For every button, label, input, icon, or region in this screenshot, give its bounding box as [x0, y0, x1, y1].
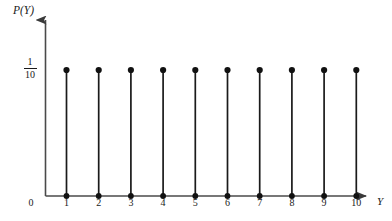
- data-point-marker: [224, 67, 230, 73]
- data-point-marker: [192, 67, 198, 73]
- axes-group: [46, 20, 367, 196]
- y-axis-title: P(Y): [13, 5, 34, 17]
- data-point-marker: [289, 67, 295, 73]
- x-tick-label-4: 4: [154, 198, 172, 208]
- x-tick-label-10: 10: [347, 198, 365, 208]
- fraction-numerator: 1: [19, 57, 41, 68]
- x-axis-title: Y: [377, 196, 383, 207]
- x-tick-label-3: 3: [122, 198, 140, 208]
- x-tick-label-1: 1: [58, 198, 76, 208]
- y-tick-label-one-tenth: 1 10: [19, 57, 41, 80]
- x-tick-label-2: 2: [90, 198, 108, 208]
- data-point-marker: [321, 67, 327, 73]
- data-point-marker: [96, 67, 102, 73]
- data-point-markers-top: [63, 67, 359, 73]
- probability-mass-function-figure: P(Y) Y 1 10 0 1 2 3 4 5 6 7 8 9 10: [0, 0, 392, 221]
- x-tick-label-5: 5: [186, 198, 204, 208]
- origin-label: 0: [25, 198, 37, 208]
- x-tick-label-8: 8: [283, 198, 301, 208]
- data-point-marker: [160, 67, 166, 73]
- data-point-marker: [257, 67, 263, 73]
- data-point-marker: [128, 67, 134, 73]
- fraction-denominator: 10: [19, 70, 41, 81]
- stem-plot-canvas: [0, 0, 392, 221]
- x-tick-label-9: 9: [315, 198, 333, 208]
- x-tick-label-6: 6: [219, 198, 237, 208]
- data-point-marker: [63, 67, 69, 73]
- stems-group: [67, 70, 357, 196]
- data-point-marker: [353, 67, 359, 73]
- x-tick-label-7: 7: [251, 198, 269, 208]
